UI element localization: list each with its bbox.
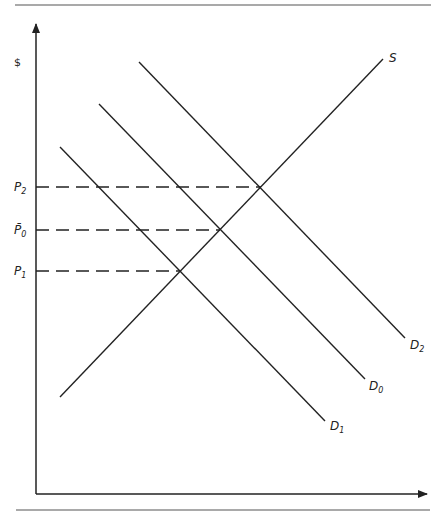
supply-demand-diagram: $ P2 P̄0 P1 S D2 D0 D1 bbox=[0, 0, 437, 517]
demand-curve-d2 bbox=[139, 62, 405, 338]
demand-curve-d1 bbox=[60, 147, 325, 421]
demand-label-d0: D0 bbox=[369, 379, 383, 395]
supply-curve bbox=[60, 59, 383, 397]
supply-label: S bbox=[389, 51, 397, 65]
price-label-p2: P2 bbox=[14, 180, 26, 196]
demand-label-d1: D1 bbox=[330, 419, 344, 435]
y-axis-label: $ bbox=[14, 56, 21, 69]
demand-label-d2: D2 bbox=[410, 338, 424, 354]
price-label-p0: P̄0 bbox=[14, 223, 26, 239]
price-label-p1: P1 bbox=[14, 264, 26, 280]
demand-curve-d0 bbox=[99, 104, 365, 379]
